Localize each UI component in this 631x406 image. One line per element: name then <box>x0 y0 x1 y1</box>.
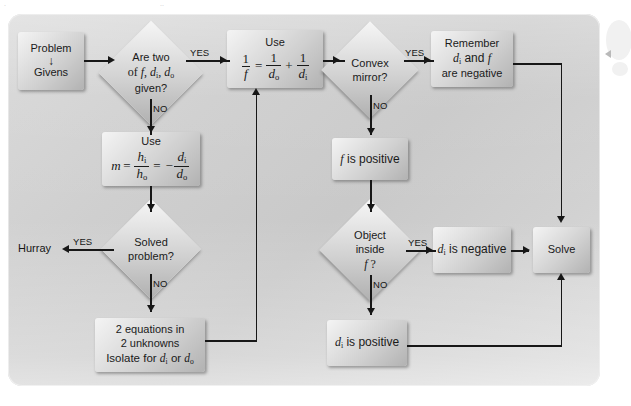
node-solve[interactable]: Solve <box>533 227 590 273</box>
node-use-magnification-equation-label: Use <box>141 135 161 149</box>
arrowhead-icon <box>367 308 375 315</box>
node-remember-negative-line3: are negative <box>442 67 503 81</box>
node-solved-problem-line1: Solved <box>134 235 168 249</box>
arrowhead-icon <box>147 126 155 133</box>
node-convex-mirror-line1: Convex <box>351 56 388 70</box>
node-are-two-given-line2: of f, di, do <box>128 65 175 82</box>
node-are-two-given-line1: Are two <box>132 50 169 64</box>
node-object-inside-f-line2: inside <box>356 242 385 256</box>
node-are-two-given-line3: given? <box>135 81 167 95</box>
edge-feedback-horizontal <box>205 340 257 342</box>
node-solve-text: Solve <box>548 243 576 257</box>
node-two-equations-line1: 2 equations in <box>116 323 185 337</box>
node-convex-mirror-line2: mirror? <box>353 70 388 84</box>
node-problem-givens[interactable]: Problem ↓ Givens <box>18 32 84 90</box>
page-text-remnant: . <box>4 0 10 7</box>
arrowhead-icon <box>523 246 530 254</box>
edge-problem-to-are-two <box>84 60 110 62</box>
edge-label-no-are-two: NO <box>153 103 167 114</box>
node-use-mirror-equation-label: Use <box>265 36 285 50</box>
arrowhead-icon <box>108 56 115 64</box>
edge-label-yes-solved: YES <box>73 236 92 247</box>
node-f-is-positive[interactable]: f is positive <box>332 138 408 180</box>
arrowhead-icon <box>147 305 155 312</box>
triangle-left-icon[interactable] <box>605 50 611 58</box>
down-arrow-icon: ↓ <box>48 56 54 67</box>
node-object-inside-f-line3: f ? <box>364 257 376 273</box>
margin-ghost-shape <box>612 62 628 76</box>
node-remember-negative[interactable]: Remember di and f are negative <box>431 31 513 87</box>
node-use-mirror-equation[interactable]: Use 1f = 1do + 1di <box>227 30 323 88</box>
arrowhead-icon <box>557 216 565 223</box>
node-two-equations[interactable]: 2 equations in 2 unknowns Isolate for di… <box>95 318 205 372</box>
arrowhead-icon <box>220 56 227 64</box>
node-two-equations-line2: 2 unknowns <box>121 337 180 351</box>
node-use-mirror-equation-math: 1f = 1do + 1di <box>239 51 311 82</box>
node-remember-negative-line1: Remember <box>445 37 499 51</box>
edge-dipos-to-solve-h <box>407 345 562 347</box>
label-hurray: Hurray <box>18 242 51 254</box>
node-solved-problem-line2: problem? <box>128 249 174 263</box>
arrowhead-icon <box>147 204 155 211</box>
arrowhead-icon <box>252 88 260 95</box>
node-f-is-positive-text: f is positive <box>340 152 399 167</box>
node-di-is-positive[interactable]: di is positive <box>327 320 407 366</box>
arrowhead-icon <box>62 245 69 253</box>
node-two-equations-line3: Isolate for di or do <box>106 351 194 367</box>
node-use-magnification-equation-math: m = hiho = − dido <box>111 150 191 183</box>
node-remember-negative-line2: di and f <box>453 51 491 67</box>
arrowhead-icon <box>424 56 431 64</box>
edge-label-yes-object: YES <box>408 237 427 248</box>
page-text-remnant: .. <box>160 0 174 7</box>
arrowhead-icon <box>333 56 340 64</box>
node-di-is-positive-text: di is positive <box>335 335 399 351</box>
edge-remember-to-solve-v <box>561 63 563 221</box>
edge-dipos-to-solve-v <box>561 280 563 346</box>
node-di-is-negative-text: di is negative <box>438 242 507 258</box>
edge-feedback-vertical <box>256 94 258 341</box>
figure-root: . .. Problem ↓ Givens Are two of f, di, … <box>0 0 631 406</box>
node-use-magnification-equation[interactable]: Use m = hiho = − dido <box>102 132 200 186</box>
edge-remember-to-solve-h <box>513 63 562 65</box>
edge-label-yes-are-two: YES <box>190 47 209 58</box>
node-di-is-negative[interactable]: di is negative <box>433 227 511 273</box>
arrowhead-icon <box>557 273 565 280</box>
node-object-inside-f-line1: Object <box>354 228 386 242</box>
arrowhead-icon <box>367 204 375 211</box>
edge-label-no-solved: NO <box>153 278 167 289</box>
edge-label-no-convex: NO <box>373 100 387 111</box>
edge-label-yes-convex: YES <box>405 47 424 58</box>
edge-solved-yes <box>68 249 114 251</box>
edge-label-no-object: NO <box>373 279 387 290</box>
node-problem-givens-line2: Givens <box>34 66 68 80</box>
arrowhead-icon <box>367 128 375 135</box>
